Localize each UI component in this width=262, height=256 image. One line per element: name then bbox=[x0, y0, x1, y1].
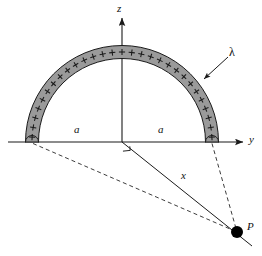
distance-label-x: x bbox=[181, 170, 186, 181]
z-axis-label: z bbox=[117, 3, 121, 14]
left-end-to-P-line bbox=[33, 144, 237, 233]
radius-label-left: a bbox=[74, 124, 80, 135]
point-P-marker bbox=[231, 226, 243, 238]
leader-lines-to-P bbox=[33, 144, 237, 233]
radius-label-right: a bbox=[158, 124, 164, 135]
point-P-label: P bbox=[247, 221, 254, 232]
y-axis-label: y bbox=[249, 134, 254, 145]
lambda-label: λ bbox=[229, 46, 235, 58]
lambda-leader-arrow bbox=[204, 57, 228, 79]
figure-canvas bbox=[0, 0, 262, 256]
right-end-to-P-line bbox=[212, 144, 237, 233]
physics-figure: z y λ a a x P bbox=[0, 0, 262, 256]
